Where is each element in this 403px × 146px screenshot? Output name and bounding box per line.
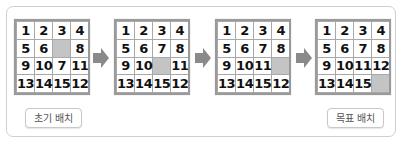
puzzle-tile: 13: [17, 75, 34, 92]
puzzle-tile: 13: [318, 75, 335, 92]
puzzle-tile: 15: [254, 75, 271, 92]
empty-tile: [153, 58, 170, 75]
empty-tile: [372, 75, 389, 92]
puzzle-tile: 8: [372, 40, 389, 57]
puzzle-tile: 10: [336, 58, 353, 75]
puzzle-tile: 1: [218, 22, 235, 39]
puzzle-tile: 6: [35, 40, 52, 57]
puzzle-tile: 4: [171, 22, 188, 39]
puzzle-tile: 14: [236, 75, 253, 92]
puzzle-tile: 6: [236, 40, 253, 57]
puzzle-tile: 8: [171, 40, 188, 57]
puzzle-tile: 11: [254, 58, 271, 75]
puzzle-tile: 4: [372, 22, 389, 39]
puzzle-tile: 6: [135, 40, 152, 57]
puzzle-tile: 8: [71, 40, 88, 57]
puzzle-tile: 12: [272, 75, 289, 92]
puzzle-tile: 3: [254, 22, 271, 39]
puzzle-tile: 3: [53, 22, 70, 39]
puzzle-grid-step-3: 123456789101113141512: [215, 19, 291, 95]
empty-tile: [272, 58, 289, 75]
goal-arrangement-label: 목표 배치: [327, 108, 384, 128]
puzzle-tile: 10: [35, 58, 52, 75]
puzzle-tile: 13: [117, 75, 134, 92]
puzzle-tile: 9: [218, 58, 235, 75]
puzzle-tile: 2: [236, 22, 253, 39]
puzzle-tile: 5: [318, 40, 335, 57]
right-arrow-icon: [93, 48, 109, 68]
puzzle-tile: 10: [236, 58, 253, 75]
puzzle-tile: 7: [354, 40, 371, 57]
puzzle-tile: 9: [318, 58, 335, 75]
right-arrow-icon: [296, 48, 312, 68]
puzzle-tile: 11: [354, 58, 371, 75]
puzzle-tile: 14: [135, 75, 152, 92]
puzzle-tile: 2: [35, 22, 52, 39]
puzzle-tile: 12: [71, 75, 88, 92]
puzzle-tile: 14: [35, 75, 52, 92]
puzzle-tile: 13: [218, 75, 235, 92]
puzzle-tile: 15: [354, 75, 371, 92]
puzzle-tile: 1: [318, 22, 335, 39]
puzzle-tile: 15: [153, 75, 170, 92]
puzzle-tile: 2: [135, 22, 152, 39]
puzzle-tile: 9: [117, 58, 134, 75]
puzzle-tile: 2: [336, 22, 353, 39]
right-arrow-icon: [195, 48, 211, 68]
puzzle-tile: 3: [354, 22, 371, 39]
initial-arrangement-label: 초기 배치: [25, 108, 82, 128]
puzzle-tile: 12: [372, 58, 389, 75]
puzzle-grid-initial: 123456891071113141512: [14, 19, 90, 95]
puzzle-tile: 5: [117, 40, 134, 57]
puzzle-tile: 3: [153, 22, 170, 39]
puzzle-tile: 11: [71, 58, 88, 75]
puzzle-tile: 12: [171, 75, 188, 92]
puzzle-tile: 5: [17, 40, 34, 57]
puzzle-tile: 7: [254, 40, 271, 57]
puzzle-tile: 1: [17, 22, 34, 39]
puzzle-tile: 6: [336, 40, 353, 57]
puzzle-tile: 1: [117, 22, 134, 39]
puzzle-grid-goal: 123456789101112131415: [315, 19, 391, 95]
puzzle-tile: 7: [53, 58, 70, 75]
puzzle-tile: 14: [336, 75, 353, 92]
puzzle-grid-step-2: 123456789101113141512: [114, 19, 190, 95]
puzzle-tile: 9: [17, 58, 34, 75]
puzzle-tile: 5: [218, 40, 235, 57]
puzzle-tile: 4: [272, 22, 289, 39]
puzzle-tile: 4: [71, 22, 88, 39]
puzzle-tile: 10: [135, 58, 152, 75]
puzzle-tile: 11: [171, 58, 188, 75]
empty-tile: [53, 40, 70, 57]
puzzle-tile: 8: [272, 40, 289, 57]
puzzle-tile: 7: [153, 40, 170, 57]
puzzle-tile: 15: [53, 75, 70, 92]
